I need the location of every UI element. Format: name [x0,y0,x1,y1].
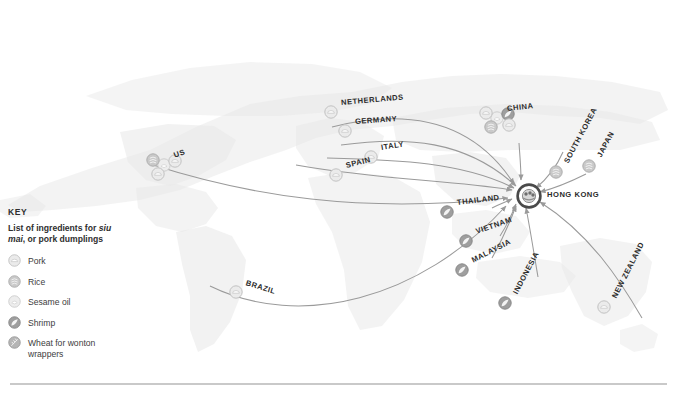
sesame-oil-icon [8,295,21,308]
key-item-sesame-oil: Sesame oil [8,295,128,308]
shrimp-icon [499,297,511,309]
node-new-zealand[interactable] [598,301,610,313]
pork-icon [503,119,515,131]
footer-divider [10,383,667,385]
node-south-korea[interactable] [550,166,562,178]
node-netherlands[interactable] [325,106,337,118]
hub-label: HONG KONG [547,190,599,199]
key-item-shrimp: Shrimp [8,316,128,329]
pork-icon [598,301,610,313]
key-item-label: Rice [28,275,45,288]
pork-icon [8,254,21,267]
node-indonesia[interactable] [499,297,511,309]
node-thailand[interactable] [441,206,453,218]
key-item-rice: Rice [8,275,128,288]
pork-icon [330,169,342,181]
rice-icon [550,166,562,178]
node-spain[interactable] [330,169,342,181]
key-item-wheat: Wheat for wonton wrappers [8,336,128,359]
pork-icon [339,125,351,137]
shrimp-icon [441,206,453,218]
node-japan[interactable] [583,160,595,172]
key-item-label: Wheat for wonton wrappers [28,336,128,359]
shrimp-icon [8,316,21,329]
wheat-icon [8,336,21,349]
key-item-label: Sesame oil [28,295,71,308]
rice-icon [8,275,21,288]
key-item-label: Shrimp [28,316,55,329]
key-subtitle-post: , or pork dumplings [23,234,103,244]
key-subtitle: List of ingredients for siu mai, or pork… [8,223,128,245]
shrimp-icon [456,264,468,276]
key-legend: KEY List of ingredients for siu mai, or … [8,207,128,367]
shrimp-icon [460,235,472,247]
key-item-label: Pork [28,254,46,267]
key-item-pork: Pork [8,254,128,267]
key-title: KEY [8,207,128,217]
pork-icon [325,106,337,118]
node-brazil[interactable] [230,286,242,298]
rice-icon [147,154,159,166]
node-malaysia[interactable] [456,264,468,276]
pork-icon [480,107,492,119]
node-germany[interactable] [339,125,351,137]
hong-kong-hub[interactable] [518,185,541,208]
pork-icon [152,168,164,180]
rice-icon [485,121,497,133]
rice-icon [583,160,595,172]
infographic-map: KEY List of ingredients for siu mai, or … [0,0,677,399]
pork-icon [230,286,242,298]
key-subtitle-pre: List of ingredients for [8,223,99,233]
node-vietnam[interactable] [460,235,472,247]
